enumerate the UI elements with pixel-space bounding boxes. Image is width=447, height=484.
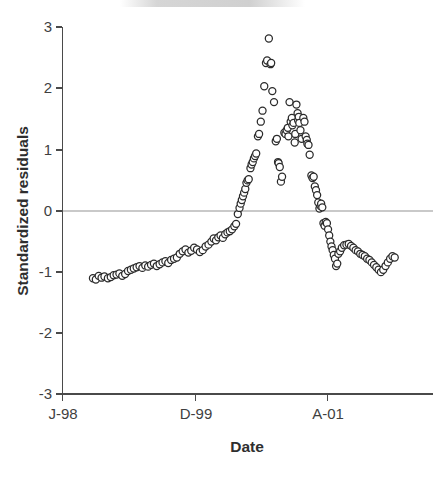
data-point — [319, 204, 326, 211]
data-point — [291, 139, 298, 146]
data-point — [273, 135, 280, 142]
figure-root: 3 2 1 0 -1 -2 -3 J-98 D-99 A-01 Date Sta… — [0, 0, 447, 484]
scatter-plot-canvas: 3 2 1 0 -1 -2 -3 J-98 D-99 A-01 Date Sta… — [0, 0, 447, 484]
y-axis-ticks — [56, 27, 62, 394]
ytick-label-neg2: -2 — [39, 324, 52, 341]
y-axis-title: Standardized residuals — [14, 126, 31, 296]
x-axis-ticks — [63, 394, 328, 401]
xtick-label-j98: J-98 — [48, 405, 77, 422]
data-point — [391, 254, 398, 261]
data-point — [301, 118, 308, 125]
data-point — [261, 83, 268, 90]
data-point — [314, 192, 321, 199]
data-point — [269, 88, 276, 95]
data-point — [305, 141, 312, 148]
data-point — [265, 35, 272, 42]
x-axis-title: Date — [230, 438, 264, 455]
ytick-label-1: 1 — [44, 141, 52, 158]
data-point-group — [89, 35, 398, 283]
data-point — [257, 118, 264, 125]
data-point — [286, 99, 293, 106]
xtick-label-d99: D-99 — [180, 405, 213, 422]
ytick-label-2: 2 — [44, 79, 52, 96]
data-point — [253, 150, 260, 157]
data-point — [268, 59, 275, 66]
ytick-label-3: 3 — [44, 18, 52, 35]
data-point — [279, 173, 286, 180]
data-point — [334, 260, 341, 267]
data-point — [270, 99, 277, 106]
x-axis-tick-labels: J-98 D-99 A-01 — [48, 405, 343, 422]
data-point — [310, 173, 317, 180]
data-point — [233, 220, 240, 227]
data-point — [297, 127, 304, 134]
data-point — [276, 163, 283, 170]
xtick-label-a01: A-01 — [312, 405, 344, 422]
data-point — [293, 101, 300, 108]
data-point — [306, 151, 313, 158]
ytick-label-neg3: -3 — [39, 385, 52, 402]
data-point — [259, 107, 266, 114]
data-point — [256, 130, 263, 137]
data-point — [285, 133, 292, 140]
data-point — [245, 176, 252, 183]
ytick-label-neg1: -1 — [39, 263, 52, 280]
ytick-label-0: 0 — [44, 202, 52, 219]
y-axis-tick-labels: 3 2 1 0 -1 -2 -3 — [39, 18, 52, 402]
